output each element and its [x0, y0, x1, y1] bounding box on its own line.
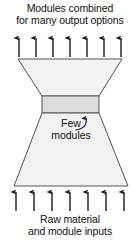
bottom-caption: Raw material and module inputs — [0, 214, 140, 237]
output-arrows-group — [19, 38, 121, 57]
few-modules-line-2: modules — [48, 129, 94, 141]
upper-trapezoid-shape — [18, 59, 122, 96]
waist-band-shape — [42, 96, 99, 113]
input-arrows-group — [16, 192, 124, 211]
diagram-canvas: Modules combined for many output options — [0, 0, 140, 244]
bottom-caption-line-2: and module inputs — [0, 226, 140, 238]
bottom-caption-line-1: Raw material — [0, 214, 140, 226]
few-modules-line-1: Few — [48, 117, 94, 129]
few-modules-callout: Few modules — [48, 117, 94, 141]
